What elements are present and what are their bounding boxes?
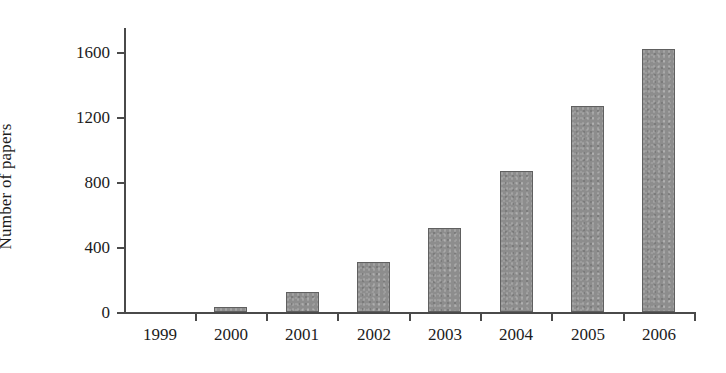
- x-axis-tick-label-2005: 2005: [571, 325, 605, 345]
- x-axis-tick: [480, 312, 482, 321]
- y-axis-tick: 800: [117, 182, 125, 184]
- y-axis-tick-label: 800: [85, 172, 111, 192]
- y-axis-title: Number of papers: [0, 0, 48, 373]
- y-axis-tick-label: 1200: [76, 107, 110, 127]
- bar-2001: [286, 292, 319, 312]
- y-axis-tick: 400: [117, 247, 125, 249]
- bar-2000: [214, 307, 247, 312]
- bar-2003: [428, 228, 461, 312]
- bar-2004: [500, 171, 533, 312]
- y-axis-tick-label: 1600: [76, 42, 110, 62]
- y-axis-tick: 1200: [117, 117, 125, 119]
- y-axis-tick: 0: [117, 312, 125, 314]
- x-axis-tick-label-2004: 2004: [499, 325, 533, 345]
- x-axis-tick-label-2006: 2006: [642, 325, 676, 345]
- x-axis-tick-label-1999: 1999: [143, 325, 177, 345]
- y-axis-tick: 1600: [117, 52, 125, 54]
- y-axis-tick-label: 400: [85, 237, 111, 257]
- x-axis-tick: [409, 312, 411, 321]
- x-axis-tick-label-2000: 2000: [214, 325, 248, 345]
- x-axis-tick: [694, 312, 696, 321]
- x-axis-tick-label-2002: 2002: [357, 325, 391, 345]
- bar-2006: [642, 49, 675, 312]
- plot-area: 0 400 800 1200 1600 1999: [124, 28, 695, 312]
- y-axis-line: [124, 28, 126, 312]
- x-axis-tick: [195, 312, 197, 321]
- x-axis-tick: [337, 312, 339, 321]
- bar-chart-figure: Number of papers 0 400 800 1200 1600: [0, 0, 726, 373]
- bar-2002: [357, 262, 390, 312]
- x-axis-tick-label-2003: 2003: [428, 325, 462, 345]
- y-axis-tick-label: 0: [102, 302, 111, 322]
- x-axis-line: [118, 312, 695, 314]
- x-axis-tick: [266, 312, 268, 321]
- x-axis-tick-label-2001: 2001: [285, 325, 319, 345]
- x-axis-tick: [551, 312, 553, 321]
- x-axis-tick: [623, 312, 625, 321]
- bar-2005: [571, 106, 604, 312]
- y-axis-title-label: Number of papers: [0, 124, 16, 250]
